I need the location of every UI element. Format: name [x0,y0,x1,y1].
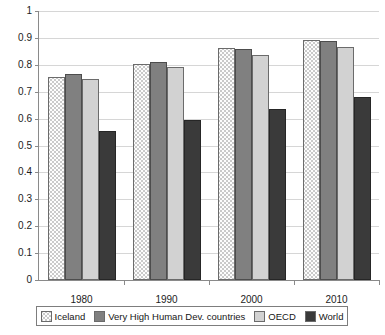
legend-item-label: Very High Human Dev. countries [108,311,245,322]
legend-item-label: Iceland [55,311,86,322]
legend-item-label: World [319,311,344,322]
chart-legend: IcelandVery High Human Dev. countriesOEC… [36,306,348,326]
x-axis-tick-label: 2010 [297,294,377,306]
bar [133,64,150,280]
gridline [39,38,379,39]
x-axis-tick-mark [209,280,210,285]
y-axis-tick-label: 1 [0,6,32,16]
y-axis-tick-label: 0.8 [0,60,32,70]
x-axis-tick-mark [379,280,380,285]
y-axis-tick-mark [35,11,39,12]
y-axis-tick-mark [35,146,39,147]
legend-swatch-icon [254,311,265,322]
bar [184,120,201,280]
legend-item[interactable]: Iceland [41,311,86,322]
y-axis-tick-mark [35,119,39,120]
bar [269,109,286,280]
y-axis-tick-label: 0.3 [0,194,32,204]
x-axis-tick-mark [124,280,125,285]
bar [303,40,320,280]
bar [354,97,371,280]
legend-swatch-icon [94,311,105,322]
y-axis-tick-label: 0.1 [0,248,32,258]
bar [337,47,354,280]
y-axis-tick-mark [35,172,39,173]
legend-swatch-icon [41,311,52,322]
bar [82,79,99,280]
bar [65,74,82,280]
legend-item[interactable]: World [305,311,344,322]
bar [235,49,252,280]
legend-item[interactable]: OECD [254,311,295,322]
bar [167,67,184,280]
plot-area: 10.90.80.70.60.50.40.30.20.10 1980199020… [38,11,379,281]
bar [99,131,116,280]
legend-swatch-icon [305,311,316,322]
y-axis-tick-label: 0.5 [0,141,32,151]
y-axis-tick-mark [35,92,39,93]
y-axis-tick-label: 0.2 [0,221,32,231]
bar-chart: 10.90.80.70.60.50.40.30.20.10 1980199020… [0,0,385,335]
legend-item-label: OECD [268,311,295,322]
bar [252,55,269,280]
y-axis-tick-mark [35,253,39,254]
bar [320,41,337,280]
legend-item[interactable]: Very High Human Dev. countries [94,311,245,322]
y-axis-tick-mark [35,199,39,200]
y-axis-tick-label: 0 [0,275,32,285]
y-axis-tick-mark [35,65,39,66]
x-axis-tick-label: 1980 [42,294,122,306]
bar [218,48,235,280]
y-axis-tick-mark [35,280,39,281]
bar [150,62,167,280]
bar [48,77,65,280]
x-axis-tick-label: 2000 [212,294,292,306]
y-axis-tick-label: 0.4 [0,167,32,177]
y-axis-tick-label: 0.7 [0,87,32,97]
y-axis-tick-label: 0.6 [0,114,32,124]
gridline [39,11,379,12]
y-axis-tick-mark [35,226,39,227]
x-axis-tick-label: 1990 [127,294,207,306]
y-axis-tick-label: 0.9 [0,33,32,43]
y-axis-tick-mark [35,38,39,39]
x-axis-tick-mark [294,280,295,285]
